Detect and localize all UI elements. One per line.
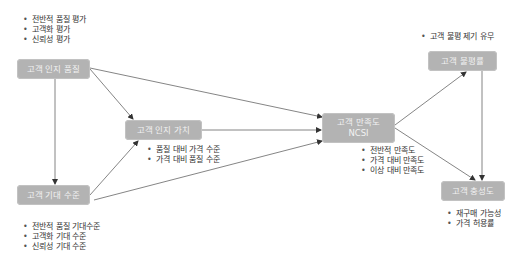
node-perceived-value: 고객 인지 가치 [125,120,202,140]
node-sublabel: NCSI [348,128,368,139]
bullets-perceived-value: 품질 대비 가격 수준 가격 대비 품질 수준 [146,145,220,165]
node-perceived-quality: 고객 인지 품질 [17,59,90,79]
node-label: 고객 인지 가치 [137,125,190,136]
bullets-expectation: 전반적 품질 기대수준 고객화 기대 수준 신뢰성 기대 수준 [22,222,100,252]
edge-expectation-to-value [90,141,138,195]
bullet-item: 신뢰성 평가 [22,35,86,45]
bullet-item: 가격 대비 만족도 [360,156,424,166]
bullet-item: 고객화 평가 [22,25,86,35]
node-label: 고객 불평률 [441,56,484,67]
node-label: 고객 기대 수준 [27,190,80,201]
node-expectation: 고객 기대 수준 [17,185,90,205]
bullets-satisfaction: 전반적 만족도 가격 대비 만족도 이상 대비 만족도 [360,146,424,176]
bullet-item: 전반적 품질 평가 [22,15,86,25]
bullet-item: 고객화 기대 수준 [22,232,100,242]
node-loyalty: 고객 충성도 [441,181,505,201]
bullet-item: 품질 대비 가격 수준 [146,145,220,155]
node-label: 고객 만족도 [337,117,380,128]
bullet-item: 전반적 품질 기대수준 [22,222,100,232]
bullet-item: 가격 대비 품질 수준 [146,155,220,165]
bullet-item: 가격 허용률 [446,219,501,229]
node-satisfaction: 고객 만족도 NCSI [322,113,395,143]
node-label: 고객 인지 품질 [27,64,80,75]
edge-quality-to-value [90,69,133,119]
bullet-item: 전반적 만족도 [360,146,424,156]
edge-satisfaction-to-complaint [395,72,466,125]
bullet-item: 재구매 가능성 [446,209,501,219]
bullet-item: 이상 대비 만족도 [360,166,424,176]
bullet-item: 신뢰성 기대 수준 [22,242,100,252]
node-label: 고객 충성도 [452,186,495,197]
node-complaint: 고객 불평률 [428,51,497,71]
bullets-loyalty: 재구매 가능성 가격 허용률 [446,209,501,229]
bullets-complaint: 고객 불평 제기 유무 [420,32,494,42]
bullets-perceived-quality: 전반적 품질 평가 고객화 평가 신뢰성 평가 [22,15,86,45]
bullet-item: 고객 불평 제기 유무 [420,32,494,42]
